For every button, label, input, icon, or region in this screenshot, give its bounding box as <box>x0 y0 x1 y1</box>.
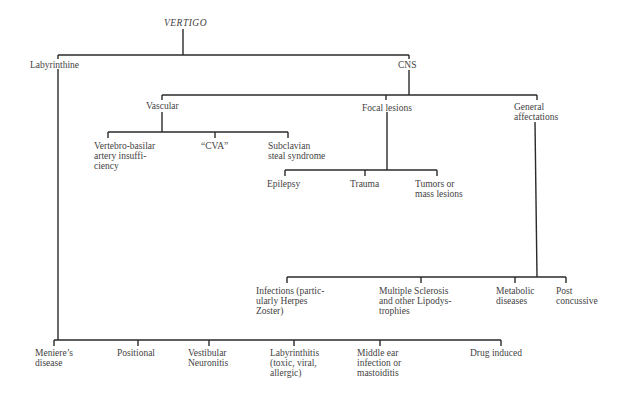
node-drug-induced: Drug induced <box>470 348 522 358</box>
node-cva: “CVA” <box>201 141 228 151</box>
node-multiple-sclerosis: Multiple Sclerosis and other Lipodys- tr… <box>379 286 451 316</box>
node-trauma: Trauma <box>350 179 379 189</box>
node-epilepsy: Epilepsy <box>267 179 300 189</box>
node-tumors: Tumors or mass lesions <box>415 179 463 199</box>
connector-lines <box>0 0 643 394</box>
node-focal-lesions: Focal lesions <box>362 103 412 113</box>
node-vertebro-basilar: Vertebro-basilar artery insuffi- ciency <box>94 141 155 171</box>
node-vascular: Vascular <box>146 101 179 111</box>
node-cns: CNS <box>398 60 416 70</box>
node-positional: Positional <box>117 348 155 358</box>
node-metabolic: Metabolic diseases <box>496 286 535 306</box>
node-middle-ear: Middle ear infection or mastoiditis <box>357 348 401 378</box>
node-infections: Infections (partic- ularly Herpes Zoster… <box>256 286 324 316</box>
node-vestibular-neuronitis: Vestibular Neuronitis <box>188 348 228 368</box>
node-subclavian-steal: Subclavian steal syndrome <box>268 141 325 161</box>
node-menieres: Meniere’s disease <box>35 348 73 368</box>
node-labyrinthine: Labyrinthine <box>30 60 79 70</box>
node-labyrinthitis: Labyrinthitis (toxic, viral, allergic) <box>270 348 319 378</box>
node-post-concussive: Post concussive <box>556 286 598 306</box>
root-node-vertigo: VERTIGO <box>164 18 207 28</box>
node-general-affectations: General affectations <box>514 102 558 122</box>
